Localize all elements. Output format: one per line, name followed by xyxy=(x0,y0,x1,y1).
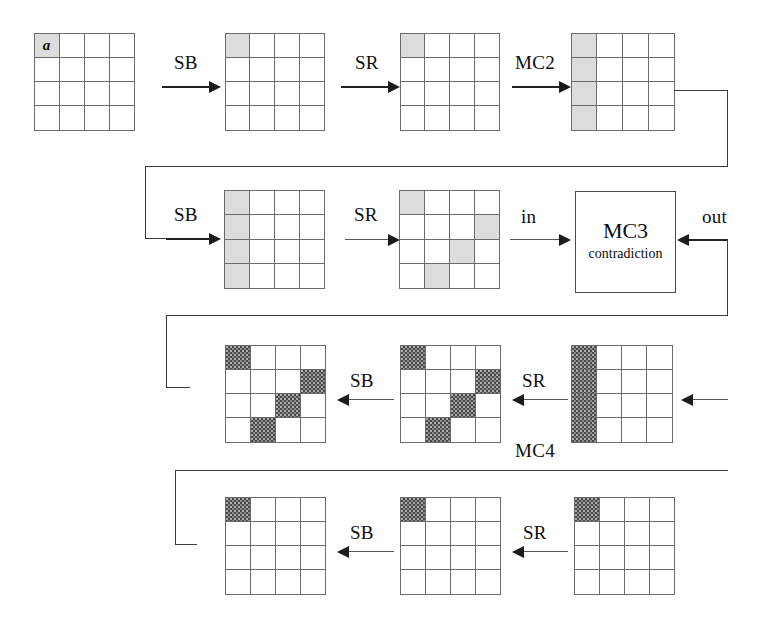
grid-cell xyxy=(275,393,301,418)
grid-cell xyxy=(299,105,325,130)
grid-cell xyxy=(450,521,476,546)
grid-cell xyxy=(475,345,501,370)
grid-cell xyxy=(649,569,675,594)
grid-cell xyxy=(571,417,597,442)
grid-cell xyxy=(400,81,426,106)
grid-cell xyxy=(424,239,450,265)
grid-cell xyxy=(475,497,501,522)
grid-cell xyxy=(475,569,501,594)
grid-cell xyxy=(599,521,625,546)
grid-cell xyxy=(648,105,675,130)
grid-cell xyxy=(450,393,476,418)
grid-cell xyxy=(574,545,600,570)
grid-cell xyxy=(424,263,450,289)
grid-cell xyxy=(449,33,475,58)
grid-cell xyxy=(249,263,275,289)
mc3-title: MC3 xyxy=(576,218,675,244)
grid-cell xyxy=(574,497,600,522)
grid-cell xyxy=(574,569,600,594)
grid-cell xyxy=(599,545,625,570)
grid-cell xyxy=(571,81,598,106)
grid-cell xyxy=(250,545,276,570)
grid-cell xyxy=(475,393,501,418)
grid-cell xyxy=(300,345,326,370)
grid-cell xyxy=(225,105,251,130)
grid-cell xyxy=(425,417,451,442)
grid-cell: a xyxy=(34,33,60,58)
grid-cell xyxy=(400,33,426,58)
mc3-contradiction-box: MC3 contradiction xyxy=(575,191,676,293)
grid-cell xyxy=(300,521,326,546)
grid-cell xyxy=(224,214,250,240)
grid-cell xyxy=(424,33,450,58)
grid-cell xyxy=(596,417,622,442)
grid-cell xyxy=(474,105,500,130)
state-grid-row3-after-sr xyxy=(400,345,500,442)
state-grid-row1-initial: a xyxy=(34,33,134,130)
grid-cell xyxy=(225,569,251,594)
grid-cell xyxy=(400,57,426,82)
grid-cell xyxy=(300,569,326,594)
grid-cell xyxy=(250,345,276,370)
grid-cell xyxy=(596,345,622,370)
grid-cell xyxy=(275,545,301,570)
grid-cell xyxy=(450,369,476,394)
grid-cell xyxy=(300,545,326,570)
grid-cell xyxy=(275,417,301,442)
grid-cell xyxy=(225,417,251,442)
arrow-sb-1 xyxy=(162,86,210,88)
grid-cell xyxy=(425,569,451,594)
state-grid-row2-after-sr xyxy=(399,190,499,288)
grid-cell xyxy=(274,33,300,58)
grid-cell xyxy=(624,545,650,570)
grid-cell xyxy=(300,417,326,442)
grid-cell xyxy=(299,214,325,240)
grid-cell xyxy=(249,57,275,82)
grid-cell xyxy=(449,190,475,216)
grid-cell xyxy=(474,190,500,216)
grid-cell xyxy=(250,369,276,394)
arrow-sr-3 xyxy=(523,399,568,400)
grid-cell xyxy=(475,369,501,394)
grid-cell xyxy=(425,393,451,418)
grid-cell xyxy=(300,393,326,418)
arrow-label-sr-4: SR xyxy=(523,522,547,544)
state-grid-row1-after-mc2 xyxy=(571,33,674,130)
grid-cell xyxy=(59,81,85,106)
grid-cell xyxy=(424,190,450,216)
grid-cell xyxy=(475,545,501,570)
grid-cell xyxy=(425,497,451,522)
grid-cell xyxy=(621,345,647,370)
marker-a-label: a xyxy=(35,34,59,57)
grid-cell xyxy=(648,57,675,82)
grid-cell xyxy=(224,190,250,216)
grid-cell xyxy=(400,569,426,594)
grid-cell xyxy=(425,369,451,394)
arrow-sr-1 xyxy=(341,86,389,88)
arrow-label-in: in xyxy=(521,206,536,228)
grid-cell xyxy=(425,345,451,370)
grid-cell xyxy=(299,190,325,216)
grid-cell xyxy=(225,33,251,58)
grid-cell xyxy=(274,263,300,289)
arrow-mc4-in xyxy=(692,399,728,400)
grid-cell xyxy=(109,105,135,130)
grid-cell xyxy=(250,417,276,442)
state-grid-row3-after-sb xyxy=(225,345,325,442)
grid-cell xyxy=(449,239,475,265)
grid-cell xyxy=(596,105,623,130)
grid-cell xyxy=(274,105,300,130)
grid-cell xyxy=(399,190,425,216)
grid-cell xyxy=(300,369,326,394)
arrow-label-sb-4: SB xyxy=(350,522,374,544)
grid-cell xyxy=(399,214,425,240)
grid-cell xyxy=(475,417,501,442)
state-grid-row2-after-sb xyxy=(224,190,324,288)
grid-cell xyxy=(474,81,500,106)
arrow-label-sb-2: SB xyxy=(174,204,198,226)
grid-cell xyxy=(250,393,276,418)
grid-cell xyxy=(400,105,426,130)
grid-cell xyxy=(425,521,451,546)
diagram-canvas: a SB SR MC2 SB xyxy=(0,0,758,637)
grid-cell xyxy=(424,214,450,240)
